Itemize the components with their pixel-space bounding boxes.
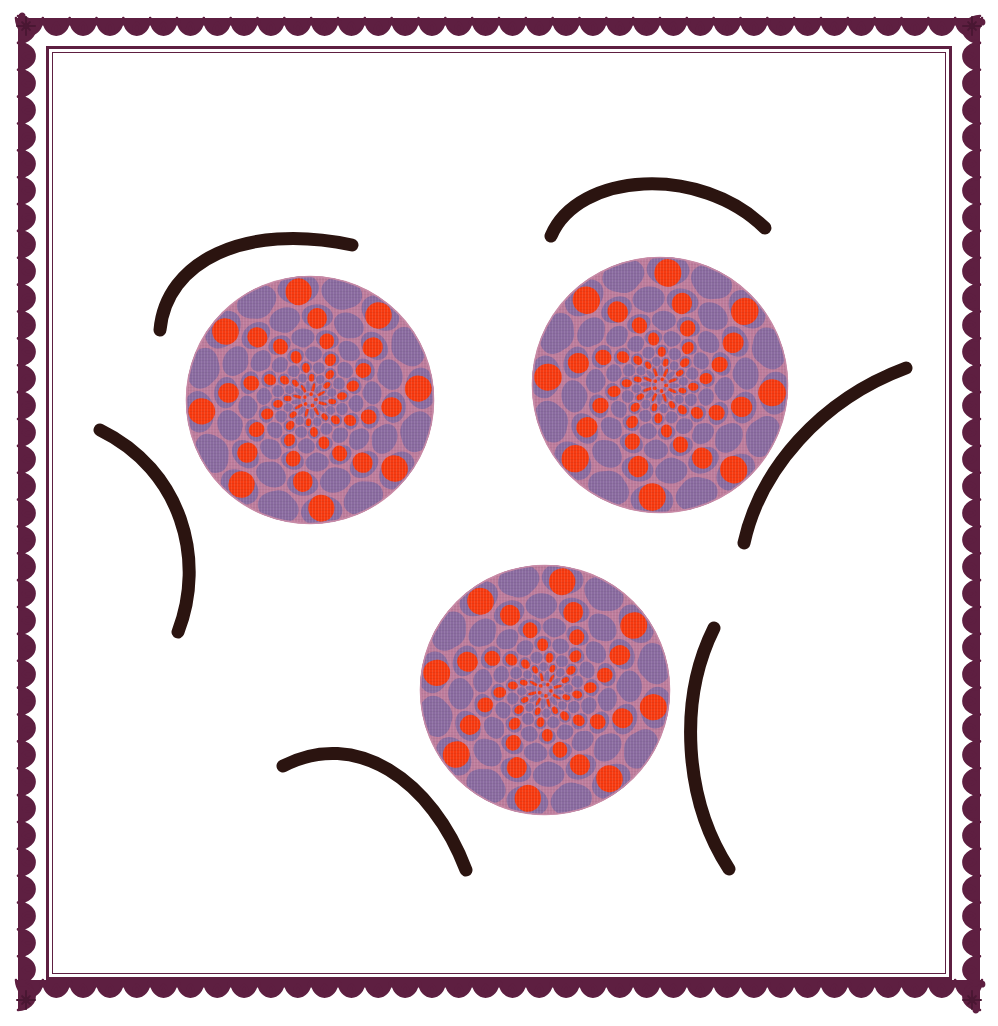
frame-rule-left-inner — [52, 52, 53, 974]
frame-corner-ornament-topleft-hub — [23, 23, 28, 28]
frame-scallop-right — [963, 16, 980, 1012]
artwork-svg — [0, 0, 998, 1026]
frame-rule-right-outer — [949, 46, 952, 980]
frame-corner-ornament-topright-hub — [969, 23, 974, 28]
frame-rule-bottom-outer — [46, 977, 952, 980]
frame-rule-left-outer — [46, 46, 49, 980]
frame-corner-ornament-bottomleft-hub — [23, 997, 28, 1002]
frame-rule-bottom-inner — [52, 973, 946, 974]
frame-rule-top-inner — [52, 52, 946, 53]
paper-background — [0, 0, 998, 1026]
artwork-canvas — [0, 0, 998, 1026]
frame-corner-ornament-bottomright-hub — [969, 997, 974, 1002]
frame-rule-top-outer — [46, 46, 952, 49]
frame-scallop-right-path — [963, 16, 980, 1012]
frame-scallop-left — [18, 14, 35, 1010]
frame-scallop-left-path — [18, 14, 35, 1010]
frame-rule-right-inner — [945, 52, 946, 974]
